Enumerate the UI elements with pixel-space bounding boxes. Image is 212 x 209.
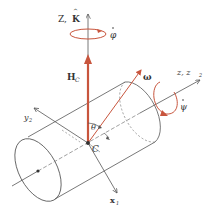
- Z-axis-label: Z,: [58, 14, 67, 24]
- gyroscope-diagram: Z, K ^ φ H C ω z, z 2 ψ θ C y 2 x 1: [0, 0, 212, 209]
- psi-dot-dot: [182, 99, 184, 101]
- psi-dot-label: ψ: [180, 102, 188, 112]
- omega-vector: [88, 70, 141, 143]
- cylinder-top-edge: [28, 82, 125, 137]
- y2-subscript: 2: [28, 117, 32, 123]
- angular-momentum-arrowhead: [84, 54, 92, 64]
- z2-subscript: 2: [198, 72, 202, 78]
- K-hat-caret: ^: [73, 7, 78, 14]
- phi-dot-label: φ: [110, 30, 117, 40]
- H-subscript: C: [75, 76, 80, 83]
- x1-subscript: 1: [116, 200, 119, 206]
- axis-end-dot: [36, 169, 39, 172]
- cylinder-bottom-edge: [55, 142, 155, 199]
- omega-label: ω: [143, 72, 152, 82]
- x1-axis-label: x: [110, 195, 115, 205]
- phi-dot-dot: [112, 27, 114, 29]
- center-C-label: C: [92, 144, 99, 154]
- theta-label: θ: [91, 123, 96, 132]
- z-axis-label: z, z: [176, 68, 191, 77]
- y2-axis: [34, 108, 88, 143]
- center-of-mass-point: [86, 141, 90, 145]
- K-hat-label: K: [72, 14, 81, 24]
- cylinder-right-end-hidden: [120, 82, 155, 142]
